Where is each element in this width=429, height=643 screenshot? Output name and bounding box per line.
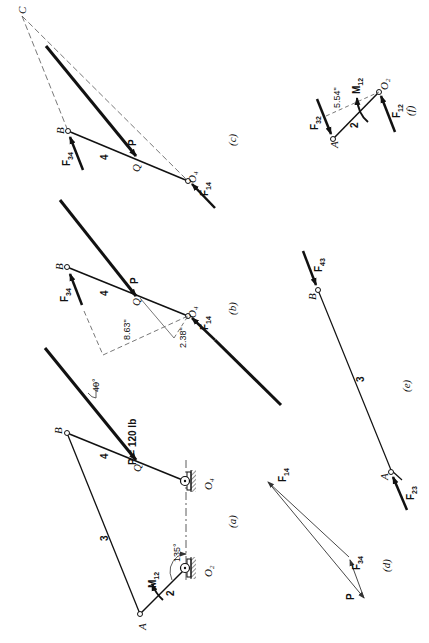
link-4-a [67,433,185,481]
link-4-label-b: 4 [99,290,110,296]
ground-pivot-o4 [181,470,197,492]
link-4-c [68,131,188,181]
link-4-b [67,267,188,316]
force-f32-label-f: F32 [309,116,322,130]
force-p-label-c: P [127,139,138,146]
point-o2-label-a: O2 [202,565,216,577]
force-p-label-d: P [345,593,356,600]
force-f34-label-c: F34 [61,152,74,166]
point-a-label-f: A [328,141,340,149]
dimension-8-63: 8.63" [122,319,132,340]
point-q-label-b: Q [130,298,142,306]
pin-b-b [65,265,70,270]
force-analysis-diagram: C B P 4 Q O4 F34 F14 (c) B P 4 Q O4 F34 … [0,0,429,643]
force-f14-label-b: F14 [199,316,212,330]
caption-e: (e) [400,379,413,392]
caption-d: (d) [380,559,393,572]
point-o4-label-a: O4 [202,478,216,490]
pin-b-c [66,129,71,134]
point-a-label-a: A [136,623,148,631]
crank-angle-135: 135° [172,543,182,562]
link-2-a [140,568,186,614]
load-angle-40: 40° [91,378,101,392]
force-f14-label-c: F14 [199,182,212,196]
point-q-label-a: Q [131,464,143,472]
dimension-2-38: 2.38" [178,327,188,348]
pin-b-a [65,431,70,436]
link-2-label-a: 2 [165,590,176,596]
angle-arc-40 [88,393,96,398]
point-o4-label-c: O4 [186,171,200,183]
link-2-label-f: 2 [349,122,360,128]
point-b-label-a: B [52,427,64,434]
panel-d: F14 F34 P (d) [268,468,393,600]
caption-b: (b) [226,302,239,315]
load-p-label-a: P = 120 lb [127,419,138,465]
caption-a: (a) [226,515,239,528]
force-f34-label-b: F34 [59,288,72,302]
dashed-line-c-b [22,16,68,131]
moment-m12-label-a: M12 [147,572,160,588]
point-a-label-e: A [378,473,390,481]
panel-a: B P = 120 lb 40° 4 Q 3 2 A M12 135° O4 O… [45,348,239,631]
dimension-5-54: 5.54" [332,87,342,108]
point-b-label-e: B [306,293,318,300]
ground-pivot-o2 [181,557,197,579]
link-4-label-c: 4 [99,154,110,160]
pin-b-e [316,288,321,293]
point-o4-label-b: O4 [186,306,200,318]
force-f23-label-e: F23 [405,486,418,500]
caption-f: (f) [404,105,417,116]
force-f14-line-b [215,340,281,405]
point-c-label: C [16,6,28,14]
force-f14-label-d: F14 [277,468,290,482]
dim-line-8-63-a [84,311,103,355]
link-4-label-a: 4 [99,453,110,459]
force-f23-e [393,477,407,510]
point-o2-label-f: O2 [378,78,392,90]
load-line-p-c [46,46,136,156]
pin-a-f [331,137,336,142]
panel-c: C B P 4 Q O4 F34 F14 (c) [16,6,239,208]
load-line-p-b-upper [60,200,136,296]
polygon-f14 [268,482,349,557]
force-f12-label-f: F12 [391,104,404,118]
force-f43-label-e: F43 [313,258,326,272]
force-p-label-b: P [129,277,140,284]
panel-e: B F43 3 A F23 (e) [303,251,418,510]
link-3-label-e: 3 [355,376,366,382]
force-f34-label-d: F34 [351,556,364,570]
panel-f: F32 5.54" M12 2 A O2 F12 (f) [309,78,417,149]
moment-m12-label-f: M12 [351,78,364,94]
pin-a-a [138,612,143,617]
panel-b: B P 4 Q O4 F34 F14 8.63" 2.38" (b) [0,0,281,405]
link-3-label-a: 3 [99,535,110,541]
point-q-label-c: Q [130,164,142,172]
point-b-label-b: B [53,263,65,270]
point-b-label-c: B [54,127,66,134]
polygon-p [268,482,364,598]
caption-c: (c) [226,133,239,146]
